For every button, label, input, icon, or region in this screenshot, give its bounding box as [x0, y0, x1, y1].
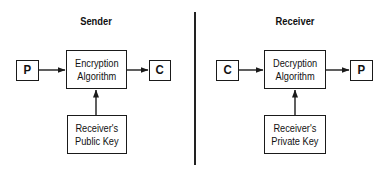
arrows-layer [0, 0, 389, 173]
